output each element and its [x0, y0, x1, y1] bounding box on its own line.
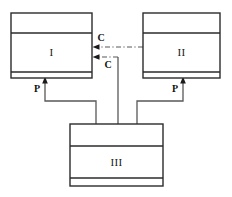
- class-box-iii[interactable]: III: [70, 124, 163, 186]
- relation-p-left[interactable]: P: [34, 77, 96, 125]
- class-box-iii-name: III: [111, 156, 123, 168]
- relation-c-upper[interactable]: C: [93, 32, 144, 50]
- relation-c-upper-label: C: [97, 32, 104, 43]
- class-box-ii-name: II: [178, 46, 186, 58]
- relation-c-lower-label: C: [104, 59, 111, 70]
- relation-p-right[interactable]: P: [137, 77, 186, 125]
- relation-p-right-label: P: [172, 83, 178, 94]
- diagram-canvas: P P C C I: [0, 0, 232, 197]
- class-box-i-name: I: [50, 46, 54, 58]
- relation-p-left-path: [45, 82, 96, 124]
- relation-c-lower-arrowhead: [93, 54, 100, 60]
- relation-p-left-label: P: [34, 83, 40, 94]
- class-box-i[interactable]: I: [11, 13, 92, 78]
- class-box-ii[interactable]: II: [143, 13, 220, 78]
- class-diagram: P P C C I: [0, 0, 232, 197]
- relation-c-upper-arrowhead: [93, 44, 100, 50]
